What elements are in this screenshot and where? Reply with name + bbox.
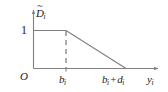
x-axis-label: yi	[147, 74, 154, 85]
y-axis-label-subscript: i	[43, 12, 45, 21]
x-tick-bidi-subscript: i	[107, 78, 109, 87]
membership-function-figure: ~ D i 1 O bi bi+di yi	[0, 0, 168, 92]
y-axis-label: ~ D i	[36, 8, 46, 19]
tilde-accent-icon: ~	[36, 1, 44, 11]
x-tick-label-bi: bi	[59, 74, 67, 85]
origin-label: O	[20, 71, 28, 82]
y-tick-label-one: 1	[21, 24, 27, 36]
descending-segment	[66, 31, 126, 69]
x-tick-bi-subscript: i	[64, 78, 66, 87]
x-tick-label-bi-plus-di: bi+di	[102, 74, 125, 85]
